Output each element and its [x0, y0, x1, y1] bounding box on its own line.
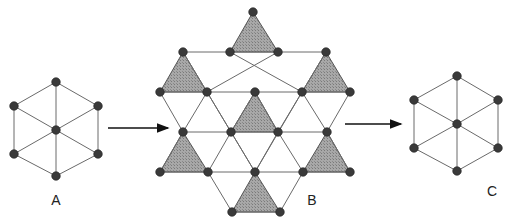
- figure-label-a: A: [51, 192, 61, 208]
- vertex-node: [410, 96, 419, 105]
- lattice-edge: [160, 92, 183, 132]
- lattice-node: [276, 208, 285, 217]
- lattice-node: [251, 168, 260, 177]
- lattice-node: [346, 168, 355, 177]
- lattice-edge: [278, 132, 303, 172]
- shaded-triangle: [302, 52, 350, 92]
- lattice-node: [179, 128, 188, 137]
- lattice-edge: [255, 132, 278, 172]
- lattice-node: [203, 88, 212, 97]
- hexagon-edge: [56, 82, 98, 106]
- lattice-node: [274, 128, 283, 137]
- vertex-node: [453, 72, 462, 81]
- center-node: [453, 120, 462, 129]
- lattice-edge: [302, 92, 327, 132]
- lattice-node: [298, 88, 307, 97]
- shaded-triangle: [230, 12, 278, 52]
- lattice-edge: [208, 132, 231, 172]
- shaded-triangle: [231, 92, 278, 132]
- vertex-node: [494, 96, 503, 105]
- vertex-node: [494, 144, 503, 153]
- lattice-node: [322, 48, 331, 57]
- shaded-triangle: [303, 132, 350, 172]
- lattice-node: [251, 88, 260, 97]
- lattice-node: [227, 128, 236, 137]
- spoke-edge: [56, 130, 98, 154]
- shaded-triangles: [160, 12, 350, 212]
- lattice-edge: [183, 92, 207, 132]
- spoke-edge: [14, 106, 56, 130]
- hexagon-edge: [457, 76, 498, 100]
- figure-label-c: C: [487, 183, 497, 199]
- lattice-edge: [231, 132, 255, 172]
- spoke-edge: [414, 124, 457, 148]
- spoke-edge: [457, 124, 498, 148]
- shaded-triangle: [232, 172, 280, 212]
- lattice-edge: [208, 172, 232, 212]
- lattice-node: [156, 168, 165, 177]
- lattice-node: [228, 208, 237, 217]
- vertex-node: [94, 150, 103, 159]
- spoke-edge: [56, 106, 98, 130]
- lattice-edge: [207, 52, 278, 92]
- spoke-edge: [457, 100, 498, 124]
- figure-label-b: B: [307, 192, 316, 208]
- lattice-node: [323, 128, 332, 137]
- spoke-edge: [14, 130, 56, 154]
- hexagon-edge: [56, 154, 98, 176]
- lattice-node: [226, 48, 235, 57]
- lattice-node: [299, 168, 308, 177]
- hexagon-edge: [414, 148, 457, 171]
- center-node: [52, 126, 61, 135]
- shaded-triangle: [160, 52, 207, 92]
- vertex-node: [453, 167, 462, 176]
- lattice-edge: [327, 92, 350, 132]
- vertex-node: [52, 172, 61, 181]
- vertex-node: [10, 102, 19, 111]
- lattice-node: [274, 48, 283, 57]
- lattice-node: [249, 8, 258, 17]
- hexagon-edge: [14, 82, 56, 106]
- lattice-node: [179, 48, 188, 57]
- lattice-node: [156, 88, 165, 97]
- lattice-node: [346, 88, 355, 97]
- lattice-node: [204, 168, 213, 177]
- hexagon-edge: [14, 154, 56, 176]
- lattice-edge: [280, 172, 303, 212]
- vertex-node: [10, 150, 19, 159]
- hexagon-edge: [457, 148, 498, 171]
- vertex-node: [410, 144, 419, 153]
- shaded-triangle: [160, 132, 208, 172]
- hexagon-edge: [414, 76, 457, 100]
- vertex-node: [52, 78, 61, 87]
- lattice-edge: [230, 52, 302, 92]
- vertex-node: [94, 102, 103, 111]
- spoke-edge: [414, 100, 457, 124]
- kagome-transformation-diagram: ABC: [0, 0, 512, 224]
